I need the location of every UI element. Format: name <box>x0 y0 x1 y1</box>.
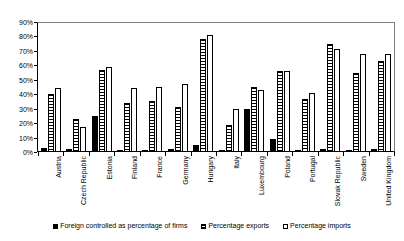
bar <box>244 109 250 152</box>
x-axis-label-cell: Poland <box>267 156 292 208</box>
bar-group <box>140 22 165 152</box>
x-axis-label-text: Germany <box>181 156 188 185</box>
bar <box>353 73 359 152</box>
x-axis-label: Luxembourg <box>258 117 265 156</box>
x-axis-label-text: Italy <box>232 156 239 169</box>
x-axis-label-text: Austria <box>54 156 61 178</box>
x-axis-label: United Kingdom <box>385 106 392 156</box>
x-axis-label-cell: Italy <box>216 156 241 208</box>
y-axis-tick-label: 10% <box>0 134 33 141</box>
x-axis-label-text: Estonia <box>105 156 112 179</box>
bar <box>200 39 206 152</box>
bar <box>251 87 257 152</box>
x-axis-label-text: Poland <box>283 156 290 178</box>
x-axis-label: France <box>156 134 163 156</box>
bar <box>270 139 276 152</box>
y-axis-tick-mark <box>34 152 37 153</box>
x-axis-labels: AustriaCzech RepublicEstoniaFinlandFranc… <box>38 156 394 208</box>
bar <box>327 44 333 152</box>
bar <box>226 125 232 152</box>
y-axis-tick-label: 60% <box>0 62 33 69</box>
x-axis-label-cell: Hungary <box>191 156 216 208</box>
x-axis-label-text: Luxembourg <box>258 156 265 195</box>
legend-item: Foreign controlled as percentage of firm… <box>53 222 187 230</box>
x-axis-label: Germany <box>181 127 188 156</box>
x-axis-label-text: Sweden <box>359 156 366 181</box>
bar-group <box>216 22 241 152</box>
bar <box>277 71 283 152</box>
x-axis-label-text: Portugal <box>308 156 315 182</box>
legend-label: Percentage imports <box>290 222 351 230</box>
y-axis-tick-label: 20% <box>0 120 33 127</box>
x-axis-label: Sweden <box>359 131 366 156</box>
chart-legend: Foreign controlled as percentage of firm… <box>0 222 404 230</box>
x-axis-label-text: United Kingdom <box>385 156 392 206</box>
legend-swatch <box>283 224 288 229</box>
x-axis-label: Poland <box>283 134 290 156</box>
bar <box>302 99 308 152</box>
x-axis-label-cell: Czech Republic <box>63 156 88 208</box>
x-axis-label: Italy <box>232 143 239 156</box>
bar-group <box>38 22 63 152</box>
x-axis-label-cell: United Kingdom <box>368 156 393 208</box>
y-axis-tick-label: 80% <box>0 33 33 40</box>
x-axis-label: Portugal <box>308 130 315 156</box>
y-axis-tick-label: 0% <box>0 149 33 156</box>
bar <box>92 116 98 152</box>
y-axis-tick-label: 30% <box>0 105 33 112</box>
x-axis-label-cell: Germany <box>165 156 190 208</box>
legend-label: Percentage exports <box>208 222 269 230</box>
x-axis-label-cell: Luxembourg <box>241 156 266 208</box>
y-axis-tick-label: 70% <box>0 47 33 54</box>
x-axis-label-text: Czech Republic <box>80 156 87 205</box>
bar-groups <box>38 22 394 152</box>
y-axis: 90%80%70%60%50%40%30%20%10%0% <box>0 22 37 152</box>
legend-label: Foreign controlled as percentage of firm… <box>60 222 187 230</box>
x-axis-label-text: Slovak Republic <box>334 156 341 206</box>
x-axis-label-cell: Austria <box>38 156 63 208</box>
bar <box>149 101 155 152</box>
legend-swatch <box>53 224 58 229</box>
legend-item: Percentage exports <box>201 222 269 230</box>
x-axis-label-cell: Portugal <box>292 156 317 208</box>
x-axis-label: Finland <box>130 133 137 156</box>
x-axis-label: Hungary <box>207 130 214 156</box>
x-axis-label-cell: Sweden <box>343 156 368 208</box>
x-axis-label: Slovak Republic <box>334 106 341 156</box>
y-axis-tick-label: 40% <box>0 91 33 98</box>
bar <box>73 119 79 152</box>
bar <box>48 94 54 152</box>
bar-group <box>267 22 292 152</box>
x-axis-label: Estonia <box>105 133 112 156</box>
bar <box>99 70 105 152</box>
bar <box>175 107 181 152</box>
x-axis-label-text: Hungary <box>207 156 214 182</box>
x-axis-label-cell: Estonia <box>89 156 114 208</box>
y-axis-tick-label: 90% <box>0 19 33 26</box>
y-axis-tick-label: 50% <box>0 76 33 83</box>
x-axis-label-text: Finland <box>130 156 137 179</box>
bar <box>124 103 130 152</box>
x-axis-label: Czech Republic <box>80 107 87 156</box>
bar <box>378 61 384 152</box>
legend-swatch <box>201 224 206 229</box>
legend-item: Percentage imports <box>283 222 351 230</box>
x-axis-label-cell: Slovak Republic <box>318 156 343 208</box>
x-axis-label-cell: France <box>140 156 165 208</box>
x-axis-tick <box>394 152 395 156</box>
bar <box>193 145 199 152</box>
x-axis-label-cell: Finland <box>114 156 139 208</box>
bar-chart: 90%80%70%60%50%40%30%20%10%0% AustriaCze… <box>0 0 404 241</box>
x-axis-label-text: France <box>156 156 163 178</box>
x-axis-label: Austria <box>54 134 61 156</box>
